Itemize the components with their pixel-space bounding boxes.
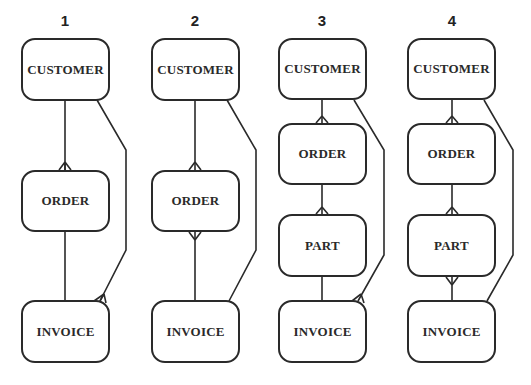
entity-part: PART [407, 214, 496, 277]
diagram-number-1: 1 [45, 12, 85, 29]
entity-invoice: INVOICE [151, 300, 240, 363]
entity-customer: CUSTOMER [278, 38, 367, 100]
er-diagram-comparison: 1 CUSTOMER ORDER INVOICE 2 CUSTOMER ORDE… [0, 0, 531, 385]
entity-part: PART [278, 214, 367, 277]
entity-customer: CUSTOMER [407, 38, 496, 100]
entity-order: ORDER [278, 123, 367, 185]
entity-customer: CUSTOMER [21, 38, 110, 101]
entity-order: ORDER [407, 123, 496, 185]
entity-order: ORDER [21, 170, 110, 232]
diagram-number-2: 2 [175, 12, 215, 29]
entity-invoice: INVOICE [278, 300, 367, 363]
entity-invoice: INVOICE [407, 300, 496, 363]
entity-customer: CUSTOMER [151, 38, 240, 101]
diagram-number-3: 3 [302, 12, 342, 29]
entity-order: ORDER [151, 170, 240, 232]
diagram-number-4: 4 [432, 12, 472, 29]
entity-invoice: INVOICE [21, 300, 110, 363]
